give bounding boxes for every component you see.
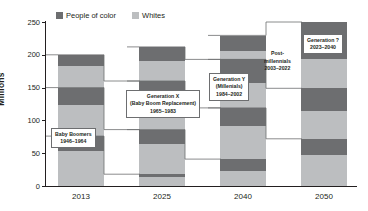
segment-2050-geny-poc xyxy=(301,139,347,155)
legend-label-whites: Whites xyxy=(142,11,165,20)
callout-baby-boomers: Baby Boomers 1946–1964 xyxy=(51,128,96,148)
y-axis-label-0: 0 xyxy=(0,183,40,191)
callout-post-millennials-line3: 2003–2022 xyxy=(264,65,291,73)
y-axis-labels: 250 200 150 100 50 0 xyxy=(0,0,40,211)
segment-2050-postmill-poc xyxy=(301,88,347,111)
y-axis-label-100: 100 xyxy=(0,117,40,125)
callout-generation-question-line1: Generation ? xyxy=(307,37,339,45)
callout-generation-x-line1: Generation X xyxy=(130,93,196,101)
segment-2050-postmill-whites xyxy=(301,111,347,139)
callout-baby-boomers-line1: Baby Boomers xyxy=(55,131,92,139)
segment-2013-boomers-whites xyxy=(58,151,104,186)
chart-legend: People of color Whites xyxy=(56,11,165,20)
segment-2025-postmill-whites xyxy=(139,61,185,81)
bar-2013 xyxy=(58,55,104,186)
y-axis-label-200: 200 xyxy=(0,51,40,59)
callout-generation-x-line2: (Baby Boom Replacement) xyxy=(130,100,196,108)
callout-post-millennials-line1: Post- xyxy=(264,50,291,58)
callout-baby-boomers-line2: 1946–1964 xyxy=(55,138,92,146)
callout-generation-y-line2: (Millenials) xyxy=(213,83,245,91)
y-axis-title: Millions xyxy=(0,72,6,105)
legend-item-whites: Whites xyxy=(132,11,165,20)
legend-label-people-of-color: People of color xyxy=(66,11,116,20)
segment-2040-geny-poc xyxy=(220,108,266,126)
callout-generation-question-line2: 2023–2040 xyxy=(307,44,339,52)
segment-2040-geny-whites xyxy=(220,126,266,159)
segment-2040-genx-whites xyxy=(220,171,266,186)
segment-2050-geny-whites xyxy=(301,155,347,187)
segment-2040-genq-whites xyxy=(220,51,266,60)
x-axis-label-2050: 2050 xyxy=(294,192,354,201)
segment-2040-genx-poc xyxy=(220,159,266,171)
callout-generation-question: Generation ? 2023–2040 xyxy=(303,34,343,54)
legend-swatch-poc-icon xyxy=(56,12,63,19)
segment-2025-genx-poc xyxy=(139,130,185,144)
legend-swatch-whites-icon xyxy=(132,12,139,19)
segment-2040-genq-poc xyxy=(220,36,266,51)
callout-generation-x: Generation X (Baby Boom Replacement) 196… xyxy=(126,90,200,118)
callout-generation-y-line1: Generation Y xyxy=(213,76,245,84)
segment-2025-postmill-poc xyxy=(139,47,185,61)
segment-2025-boomers-poc xyxy=(139,174,185,177)
segment-2013-genx-poc xyxy=(58,88,104,105)
callout-generation-y-line3: 1984–2002 xyxy=(213,91,245,99)
segment-2013-geny-poc xyxy=(58,55,104,66)
legend-item-people-of-color: People of color xyxy=(56,11,116,20)
y-axis-label-150: 150 xyxy=(0,84,40,92)
y-axis-label-50: 50 xyxy=(0,150,40,158)
x-axis-label-2040: 2040 xyxy=(213,192,273,201)
x-axis-label-2013: 2013 xyxy=(51,192,111,201)
y-axis-label-250: 250 xyxy=(0,19,40,27)
segment-2050-genq-whites xyxy=(301,59,347,88)
segment-2013-geny-whites xyxy=(58,66,104,88)
callout-post-millennials: Post- millennials 2003–2022 xyxy=(264,50,291,73)
segment-2025-genx-whites xyxy=(139,144,185,174)
x-axis-line xyxy=(45,186,357,187)
generations-stacked-bar-chart: 250 200 150 100 50 0 Millions People of … xyxy=(0,0,368,211)
x-axis-label-2025: 2025 xyxy=(132,192,192,201)
callout-generation-x-line3: 1965–1983 xyxy=(130,108,196,116)
callout-generation-y: Generation Y (Millenials) 1984–2002 xyxy=(209,73,249,101)
segment-2025-boomers-whites xyxy=(139,177,185,186)
callout-post-millennials-line2: millennials xyxy=(264,58,291,66)
bar-2040 xyxy=(220,36,266,186)
